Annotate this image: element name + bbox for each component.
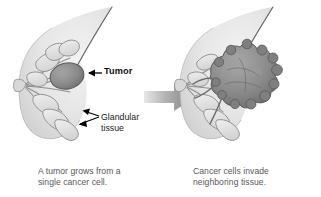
caption-invasive-stage-line1: Cancer cells invade [193, 166, 321, 177]
caption-tumor-stage-line1: A tumor grows from a [38, 166, 160, 177]
caption-tumor-stage: A tumor grows from a single cancer cell. [0, 166, 160, 189]
caption-invasive-stage: Cancer cells invade neighboring tissue. [161, 166, 321, 189]
caption-invasive-stage-line2: neighboring tissue. [193, 177, 321, 188]
glandular-tissue-label-line2: tissue [101, 123, 139, 134]
glandular-tissue-label: Glandular tissue [101, 112, 139, 134]
panel-invasive-stage: Cancer cells invade neighboring tissue. [161, 0, 321, 197]
breast-cross-section-with-invasive-cancer [161, 0, 321, 160]
panel-tumor-stage: Tumor Glandular tissue A tumor grows fro… [0, 0, 160, 197]
glandular-tissue-label-line1: Glandular [101, 112, 139, 123]
tumor-leader-arrow [88, 70, 102, 77]
tumor-label: Tumor [104, 66, 132, 76]
breast-cancer-progression-figure: Tumor Glandular tissue A tumor grows fro… [0, 0, 321, 197]
breast-cross-section-with-tumor [0, 0, 160, 160]
caption-tumor-stage-line2: single cancer cell. [38, 177, 160, 188]
